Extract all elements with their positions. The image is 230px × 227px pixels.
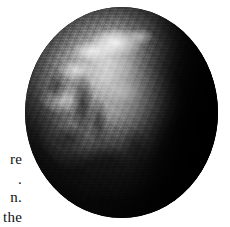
globe-limb-darkening	[25, 7, 218, 218]
margin-text-line: re	[10, 152, 22, 167]
margin-text-line: the	[3, 210, 22, 225]
globe-sphere	[25, 7, 218, 218]
margin-text-line: n.	[10, 190, 22, 205]
margin-text-line: .	[18, 172, 22, 187]
earth-globe-figure	[25, 7, 218, 218]
figure-page: re . n. the	[0, 0, 230, 227]
margin-text-column: re . n. the	[0, 0, 30, 227]
